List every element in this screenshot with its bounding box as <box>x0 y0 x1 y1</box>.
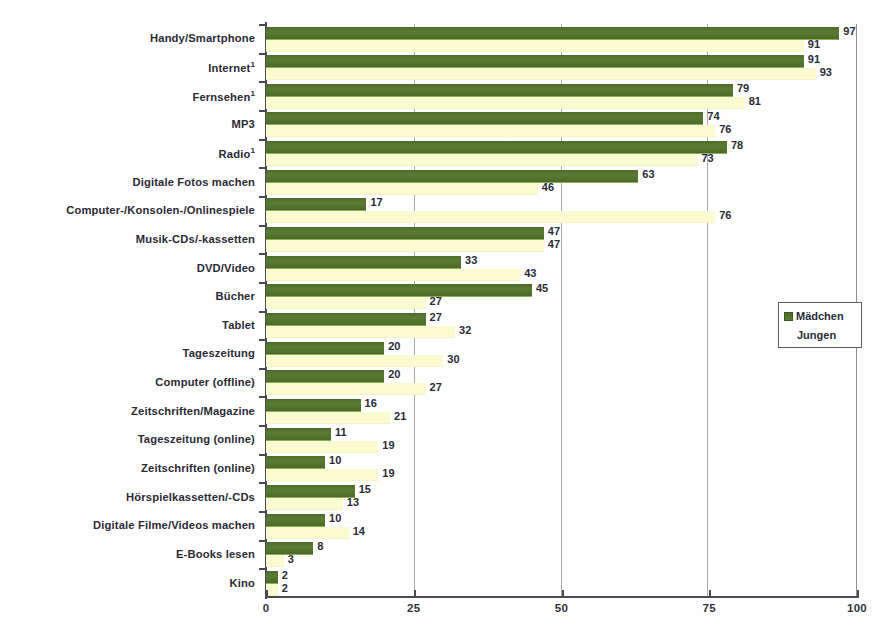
x-axis-tick-label: 0 <box>263 602 270 614</box>
bar-value-jungen: 13 <box>347 496 359 508</box>
bar-jungen <box>266 383 426 395</box>
bar-jungen <box>266 297 426 309</box>
y-axis-tick <box>259 339 266 341</box>
category-label: Musik-CDs/-kassetten <box>136 233 255 245</box>
bar-value-maedchen: 79 <box>737 82 749 94</box>
bar-value-maedchen: 10 <box>329 454 341 466</box>
bar-value-jungen: 2 <box>282 582 288 594</box>
y-axis-tick <box>259 167 266 169</box>
bar-value-jungen: 91 <box>808 38 820 50</box>
category-label: Handy/Smartphone <box>150 32 255 44</box>
bar-maedchen <box>266 342 384 355</box>
legend-label-maedchen: Mädchen <box>796 310 844 322</box>
y-axis-tick <box>259 311 266 313</box>
bar-value-maedchen: 20 <box>388 368 400 380</box>
bar-value-jungen: 93 <box>820 66 832 78</box>
bar-jungen <box>266 240 544 252</box>
bar-value-maedchen: 78 <box>731 139 743 151</box>
plot-area <box>266 24 857 597</box>
bar-maedchen <box>266 256 461 269</box>
bar-jungen <box>266 40 804 52</box>
bar-value-jungen: 21 <box>394 410 406 422</box>
category-label: Bücher <box>216 290 255 302</box>
bar-jungen <box>266 125 715 137</box>
bar-value-jungen: 76 <box>719 209 731 221</box>
legend-entry-jungen: Jungen <box>797 328 836 342</box>
bar-value-maedchen: 10 <box>329 512 341 524</box>
y-axis-tick <box>259 53 266 55</box>
x-axis-tick-label: 25 <box>407 602 420 614</box>
bar-jungen <box>266 269 520 281</box>
bar-value-jungen: 32 <box>459 324 471 336</box>
bar-maedchen <box>266 370 384 383</box>
bar-maedchen <box>266 27 839 40</box>
category-label: Digitale Fotos machen <box>132 176 255 188</box>
bar-maedchen <box>266 428 331 441</box>
bar-value-maedchen: 17 <box>370 196 382 208</box>
category-label: Internet1 <box>208 60 255 74</box>
bar-value-jungen: 27 <box>430 295 442 307</box>
category-label: Fernsehen1 <box>192 89 255 103</box>
bar-jungen <box>266 469 378 481</box>
category-label: Radio1 <box>219 146 255 160</box>
y-axis-tick <box>259 454 266 456</box>
bar-value-maedchen: 33 <box>465 254 477 266</box>
bar-value-jungen: 14 <box>353 525 365 537</box>
category-label: Kino <box>230 577 255 589</box>
bar-value-maedchen: 63 <box>642 168 654 180</box>
bar-jungen <box>266 355 443 367</box>
y-axis-tick <box>259 24 266 26</box>
bar-value-jungen: 81 <box>749 95 761 107</box>
bar-value-maedchen: 74 <box>707 110 719 122</box>
x-axis-tick <box>266 590 268 598</box>
y-axis-tick <box>259 425 266 427</box>
bar-value-jungen: 46 <box>542 181 554 193</box>
category-label: Zeitschriften/Magazine <box>131 405 255 417</box>
bar-maedchen <box>266 514 325 527</box>
gridline-25 <box>414 24 415 597</box>
y-axis-tick <box>259 110 266 112</box>
bar-value-jungen: 30 <box>447 353 459 365</box>
y-axis-tick <box>259 225 266 227</box>
bar-jungen <box>266 498 343 510</box>
category-label: Digitale Filme/Videos machen <box>93 519 255 531</box>
y-axis-tick <box>259 253 266 255</box>
bar-value-maedchen: 45 <box>536 282 548 294</box>
bar-value-jungen: 73 <box>701 152 713 164</box>
category-label: MP3 <box>232 118 255 130</box>
bar-value-maedchen: 47 <box>548 225 560 237</box>
bar-value-jungen: 19 <box>382 467 394 479</box>
bar-jungen <box>266 326 455 338</box>
bar-jungen <box>266 412 390 424</box>
category-label: Hörspielkassetten/-CDs <box>126 491 255 503</box>
bar-value-jungen: 47 <box>548 238 560 250</box>
x-axis-tick-label: 100 <box>847 602 867 614</box>
bar-maedchen <box>266 141 727 154</box>
legend-swatch-maedchen-icon <box>784 312 793 321</box>
bar-maedchen <box>266 227 544 240</box>
x-axis-tick <box>709 590 711 598</box>
bar-value-maedchen: 91 <box>808 53 820 65</box>
x-axis-tick <box>414 590 416 598</box>
bar-jungen <box>266 154 697 166</box>
bar-value-maedchen: 2 <box>282 569 288 581</box>
bar-maedchen <box>266 456 325 469</box>
bar-value-jungen: 3 <box>288 553 294 565</box>
bar-value-maedchen: 8 <box>317 540 323 552</box>
category-label: Zeitschriften (online) <box>141 462 255 474</box>
category-label: Computer-/Konsolen-/Onlinespiele <box>66 204 255 216</box>
bar-maedchen <box>266 198 366 211</box>
bar-jungen <box>266 183 538 195</box>
bar-maedchen <box>266 55 804 68</box>
bar-value-maedchen: 27 <box>430 311 442 323</box>
y-axis-tick <box>259 568 266 570</box>
bar-maedchen <box>266 313 426 326</box>
legend-label-jungen: Jungen <box>797 329 836 341</box>
bar-maedchen <box>266 399 361 412</box>
y-axis-tick <box>259 511 266 513</box>
x-axis-tick-label: 75 <box>703 602 716 614</box>
category-label: DVD/Video <box>197 262 255 274</box>
legend: Mädchen Jungen <box>778 302 862 348</box>
bar-value-maedchen: 16 <box>365 397 377 409</box>
category-label: E-Books lesen <box>176 548 255 560</box>
